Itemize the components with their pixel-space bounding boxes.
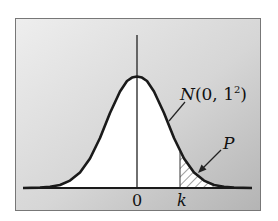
area-label-p: P	[222, 133, 235, 153]
tick-label-k: k	[177, 191, 187, 210]
normal-distribution-figure: N(0, 12) P 0 k	[0, 0, 278, 221]
tick-label-zero: 0	[132, 191, 142, 210]
